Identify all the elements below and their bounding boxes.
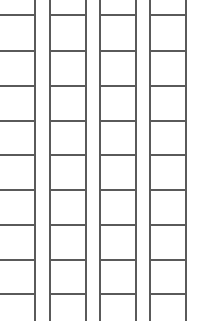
row-divider — [0, 259, 36, 261]
row-divider — [0, 189, 36, 191]
row-divider — [49, 259, 87, 261]
row-divider — [0, 85, 36, 87]
row-divider — [49, 120, 87, 122]
row-divider — [149, 189, 187, 191]
grid-column-2 — [49, 0, 87, 321]
column-left-border — [99, 0, 101, 321]
row-divider — [0, 293, 36, 295]
row-divider — [0, 50, 36, 52]
grid-column-3 — [99, 0, 137, 321]
row-divider — [149, 224, 187, 226]
row-divider — [99, 50, 137, 52]
column-left-border — [149, 0, 151, 321]
row-divider — [0, 120, 36, 122]
row-divider — [149, 85, 187, 87]
row-divider — [149, 293, 187, 295]
row-divider — [49, 14, 87, 16]
row-divider — [49, 189, 87, 191]
row-divider — [49, 85, 87, 87]
row-divider — [149, 154, 187, 156]
column-right-border — [135, 0, 137, 321]
grid-column-4 — [149, 0, 187, 321]
row-divider — [49, 224, 87, 226]
row-divider — [149, 14, 187, 16]
row-divider — [99, 224, 137, 226]
row-divider — [49, 50, 87, 52]
row-divider — [0, 14, 36, 16]
row-divider — [149, 259, 187, 261]
grid-column-1 — [0, 0, 36, 321]
row-divider — [99, 85, 137, 87]
row-divider — [49, 154, 87, 156]
row-divider — [99, 293, 137, 295]
row-divider — [0, 224, 36, 226]
row-divider — [99, 189, 137, 191]
row-divider — [99, 259, 137, 261]
column-left-border — [49, 0, 51, 321]
row-divider — [99, 14, 137, 16]
column-right-border — [185, 0, 187, 321]
row-divider — [149, 50, 187, 52]
column-right-border — [34, 0, 36, 321]
row-divider — [0, 154, 36, 156]
row-divider — [49, 293, 87, 295]
row-divider — [149, 120, 187, 122]
row-divider — [99, 120, 137, 122]
row-divider — [99, 154, 137, 156]
column-right-border — [85, 0, 87, 321]
